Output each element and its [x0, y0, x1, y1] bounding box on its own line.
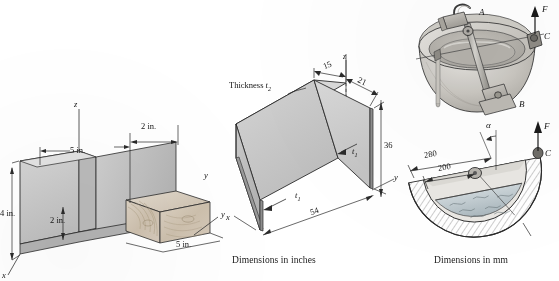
dimension-label-5in-depth: 5 in.	[176, 239, 191, 249]
label-F-bucket: F	[542, 4, 548, 14]
figure-thin-wall-channel: Thickness t2 t1 t1 15 21 36 54 z y x y D…	[200, 52, 400, 281]
angle-alpha-leg	[480, 132, 491, 158]
dimension-label-5in-top: 5 in.	[70, 145, 85, 155]
label-F-section: F	[544, 121, 550, 131]
thickness-t2-label: Thickness t2	[229, 80, 271, 92]
axis-label-x-left: x	[2, 270, 6, 280]
figure-page: z y x 5 in. 2 in. 4 in. 2 in. 5 in.	[0, 0, 559, 281]
label-B-bucket: B	[519, 99, 525, 109]
left-wall-inner-face	[79, 151, 96, 232]
left-flange-edge	[260, 200, 263, 231]
pivot-pin-b	[495, 92, 502, 98]
axis-x-mid	[234, 216, 256, 230]
axis-label-y2-mid: y	[204, 170, 208, 180]
secondary-rod-tip	[436, 104, 440, 107]
label-A-bucket: A	[479, 7, 485, 17]
angle-alpha-arc	[486, 136, 496, 141]
force-arrow-F-top	[531, 6, 539, 34]
thickness-t1-right-label: t1	[352, 146, 357, 158]
axis-label-z-mid: z	[343, 52, 346, 61]
label-alpha-section: α	[486, 120, 491, 130]
force-arrow-F-section	[534, 121, 542, 151]
right-flange-edge	[370, 108, 373, 189]
thickness-t1-left-label: t1	[295, 190, 300, 202]
caption-inches: Dimensions in inches	[232, 255, 316, 265]
figure-bucket-section: F C α 280 200 Dimensions in mm	[392, 118, 559, 281]
leader-tick-bottom	[523, 223, 531, 236]
secondary-rod	[436, 55, 440, 104]
dimension-54	[263, 195, 374, 235]
label-C-section: C	[545, 148, 551, 158]
axis-y-mid	[372, 179, 394, 190]
pivot-pin-a-center	[466, 29, 469, 32]
label-C-bucket: C	[544, 31, 550, 41]
axis-label-z-left: z	[74, 99, 77, 109]
axis-label-x-mid: x	[226, 212, 230, 222]
dimension-label-2in-inner: 2 in.	[50, 215, 65, 225]
figure-bucket-mechanism: A B C F	[392, 0, 559, 132]
caption-mm: Dimensions in mm	[434, 255, 508, 265]
pivot-pin-c	[530, 35, 537, 42]
arrow-t1-left	[263, 199, 286, 211]
dimension-label-2in-top: 2 in.	[141, 121, 156, 131]
dimension-label-4in: 4 in.	[0, 208, 15, 218]
axis-x-left	[8, 254, 20, 275]
